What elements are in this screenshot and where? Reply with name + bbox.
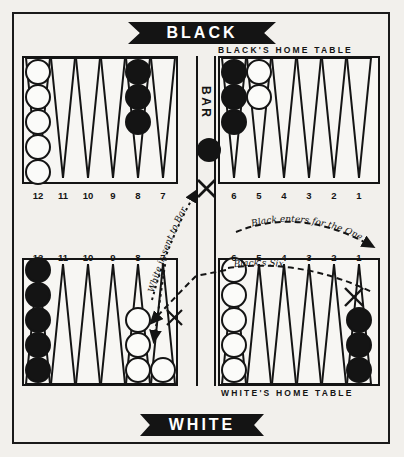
checker-black bbox=[221, 59, 247, 85]
checker-white bbox=[125, 357, 151, 383]
checker-black bbox=[221, 84, 247, 110]
checker-white bbox=[125, 307, 151, 333]
point-number-bottom-left: 10 bbox=[80, 252, 96, 263]
checker-white bbox=[221, 357, 247, 383]
checker-black bbox=[346, 307, 372, 333]
bar: BAR bbox=[178, 56, 218, 386]
backgammon-diagram: BLACK WHITE BLACK'S HOME TABLE WHITE'S H… bbox=[0, 0, 404, 457]
checker-white bbox=[150, 357, 176, 383]
black-player-banner-label: BLACK bbox=[167, 24, 238, 42]
point-number-bottom-left: 7 bbox=[155, 252, 171, 263]
point-number-top-left: 11 bbox=[55, 190, 71, 201]
checker-black bbox=[125, 59, 151, 85]
point-number-bottom-right: 6 bbox=[226, 252, 242, 263]
point-number-top-right: 6 bbox=[226, 190, 242, 201]
checker-black bbox=[125, 84, 151, 110]
point-number-top-left: 9 bbox=[105, 190, 121, 201]
checker-white bbox=[25, 109, 51, 135]
point-number-bottom-right: 3 bbox=[301, 252, 317, 263]
checker-white bbox=[25, 159, 51, 185]
checker-black bbox=[25, 357, 51, 383]
checker-white bbox=[125, 332, 151, 358]
point-number-bottom-right: 1 bbox=[351, 252, 367, 263]
point-number-bottom-right: 5 bbox=[251, 252, 267, 263]
point-number-top-right: 2 bbox=[326, 190, 342, 201]
checker-black bbox=[346, 332, 372, 358]
checker-black bbox=[125, 109, 151, 135]
checker-white bbox=[221, 307, 247, 333]
point-number-top-left: 7 bbox=[155, 190, 171, 201]
point-number-top-left: 8 bbox=[130, 190, 146, 201]
checker-white bbox=[221, 332, 247, 358]
point-number-top-right: 4 bbox=[276, 190, 292, 201]
black-home-table-caption: BLACK'S HOME TABLE bbox=[218, 45, 353, 55]
bar-edge-left bbox=[196, 56, 198, 386]
point-number-bottom-left: 11 bbox=[55, 252, 71, 263]
point-number-top-left: 10 bbox=[80, 190, 96, 201]
bar-checker-black bbox=[197, 138, 221, 162]
checker-white bbox=[25, 84, 51, 110]
bar-label: BAR bbox=[199, 86, 213, 116]
white-home-table-caption: WHITE'S HOME TABLE bbox=[221, 388, 354, 398]
checker-black bbox=[346, 357, 372, 383]
checker-white bbox=[25, 134, 51, 160]
point-number-top-right: 3 bbox=[301, 190, 317, 201]
point-number-top-left: 12 bbox=[30, 190, 46, 201]
white-player-banner-label: WHITE bbox=[169, 416, 236, 434]
point-number-bottom-right: 4 bbox=[276, 252, 292, 263]
point-number-bottom-left: 8 bbox=[130, 252, 146, 263]
point-number-bottom-left: 9 bbox=[105, 252, 121, 263]
checker-white bbox=[221, 282, 247, 308]
black-player-banner: BLACK bbox=[128, 22, 276, 44]
point-number-bottom-right: 2 bbox=[326, 252, 342, 263]
checker-black bbox=[221, 109, 247, 135]
point-number-bottom-left: 12 bbox=[30, 252, 46, 263]
checker-black bbox=[25, 332, 51, 358]
checker-black bbox=[25, 307, 51, 333]
point-number-top-right: 5 bbox=[251, 190, 267, 201]
white-player-banner: WHITE bbox=[140, 414, 264, 436]
checker-white bbox=[25, 59, 51, 85]
checker-white bbox=[246, 84, 272, 110]
checker-black bbox=[25, 282, 51, 308]
checker-white bbox=[246, 59, 272, 85]
bar-edge-right bbox=[214, 56, 216, 386]
playing-surface: BAR bbox=[22, 56, 380, 386]
point-number-top-right: 1 bbox=[351, 190, 367, 201]
